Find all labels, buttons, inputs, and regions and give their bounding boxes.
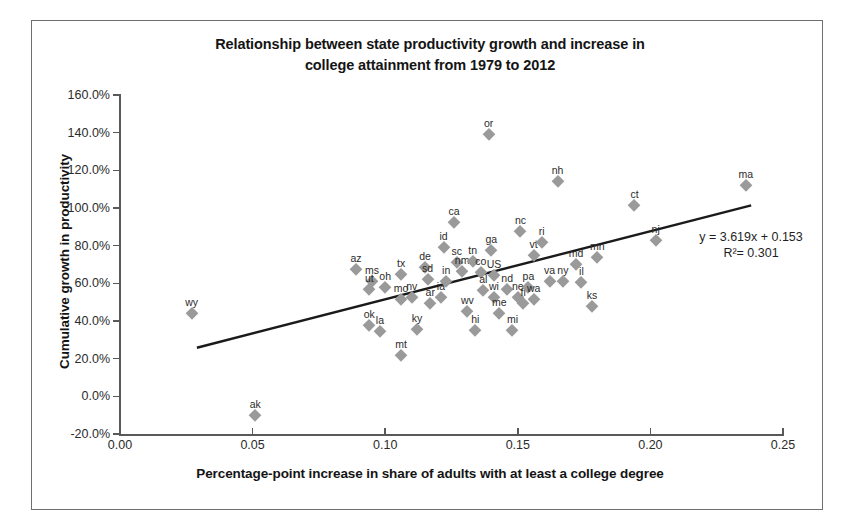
scatter-point-label: wi xyxy=(489,280,499,291)
scatter-point-label: pa xyxy=(523,270,535,281)
scatter-point-label: or xyxy=(484,117,493,128)
scatter-point-label: oh xyxy=(379,270,391,281)
scatter-point-label: ar xyxy=(426,287,435,298)
y-tick-label: 100.0% xyxy=(40,201,110,215)
scatter-point-label: tx xyxy=(397,258,405,269)
y-tick-label: 20.0% xyxy=(40,352,110,366)
scatter-point-label: al xyxy=(479,273,487,284)
scatter-point-label: nh xyxy=(552,165,564,176)
y-tick-mark xyxy=(113,170,119,172)
scatter-point-label: ks xyxy=(587,289,598,300)
scatter-point-label: ri xyxy=(539,225,545,236)
scatter-point-label: id xyxy=(439,230,447,241)
scatter-point-label: va xyxy=(544,265,555,276)
scatter-point-label: nc xyxy=(515,214,526,225)
scatter-point-label: ny xyxy=(557,264,568,275)
scatter-point-label: ok xyxy=(364,309,375,320)
scatter-point-label: hi xyxy=(471,314,479,325)
scatter-point-label: US xyxy=(487,258,502,269)
x-tick-mark xyxy=(119,428,121,434)
x-tick-label: 0.20 xyxy=(622,438,678,452)
y-axis-line xyxy=(119,94,121,435)
y-tick-label: 140.0% xyxy=(40,126,110,140)
y-tick-mark xyxy=(113,283,119,285)
y-tick-mark xyxy=(113,132,119,134)
scatter-point-label: ut xyxy=(365,272,374,283)
y-tick-mark xyxy=(113,358,119,360)
scatter-point-label: wv xyxy=(461,294,474,305)
x-tick-label: 0.10 xyxy=(357,438,413,452)
regression-equation-text: y = 3.619x + 0.153 xyxy=(699,230,803,244)
x-tick-mark xyxy=(782,428,784,434)
x-tick-label: 0.00 xyxy=(92,438,148,452)
x-tick-mark xyxy=(384,428,386,434)
scatter-point-label: ak xyxy=(250,399,261,410)
scatter-point-label: ga xyxy=(485,234,497,245)
scatter-point-label: tn xyxy=(468,245,477,256)
y-tick-mark xyxy=(113,433,119,435)
y-tick-label: 40.0% xyxy=(40,314,110,328)
y-tick-mark xyxy=(113,94,119,96)
chart-figure: Relationship between state productivity … xyxy=(0,0,856,530)
scatter-point-label: az xyxy=(350,253,361,264)
y-tick-mark xyxy=(113,245,119,247)
scatter-point-label: la xyxy=(376,315,384,326)
scatter-point-label: il xyxy=(579,265,584,276)
y-tick-mark xyxy=(113,320,119,322)
scatter-point-label: sd xyxy=(422,262,433,273)
scatter-point-label: ca xyxy=(449,206,460,217)
scatter-point-label: ky xyxy=(412,313,423,324)
scatter-point-label: wa xyxy=(527,283,540,294)
scatter-point-label: nj xyxy=(652,223,660,234)
scatter-point-label: co xyxy=(475,256,486,267)
scatter-point-label: in xyxy=(442,265,450,276)
x-tick-mark xyxy=(252,428,254,434)
x-axis-line xyxy=(119,434,784,436)
scatter-point-label: mt xyxy=(395,338,407,349)
scatter-point-label: ma xyxy=(739,169,754,180)
y-tick-mark xyxy=(113,207,119,209)
chart-title-line-1: Relationship between state productivity … xyxy=(215,36,645,52)
y-tick-label: 80.0% xyxy=(40,239,110,253)
chart-title-line-2: college attainment from 1979 to 2012 xyxy=(120,55,740,76)
x-tick-mark xyxy=(650,428,652,434)
scatter-point-label: md xyxy=(569,248,584,259)
y-tick-label: 160.0% xyxy=(40,88,110,102)
y-tick-mark xyxy=(113,396,119,398)
x-tick-label: 0.25 xyxy=(755,438,811,452)
scatter-point-label: nv xyxy=(406,280,417,291)
scatter-point-label: mi xyxy=(507,314,518,325)
y-tick-label: 0.0% xyxy=(40,389,110,403)
scatter-point-label: de xyxy=(419,251,431,262)
x-tick-label: 0.05 xyxy=(225,438,281,452)
scatter-point-label: mn xyxy=(590,240,605,251)
scatter-point-label: ct xyxy=(630,188,638,199)
y-tick-label: 60.0% xyxy=(40,276,110,290)
x-tick-mark xyxy=(517,428,519,434)
y-tick-label: 120.0% xyxy=(40,163,110,177)
x-axis-title: Percentage-point increase in share of ad… xyxy=(60,466,800,481)
scatter-point-label: me xyxy=(492,297,507,308)
scatter-point-label: wy xyxy=(185,297,198,308)
page-title: Relationship between state productivity … xyxy=(120,34,740,75)
x-tick-label: 0.15 xyxy=(490,438,546,452)
r-squared-text: R²= 0.301 xyxy=(688,245,814,261)
regression-equation: y = 3.619x + 0.153 R²= 0.301 xyxy=(688,229,814,262)
